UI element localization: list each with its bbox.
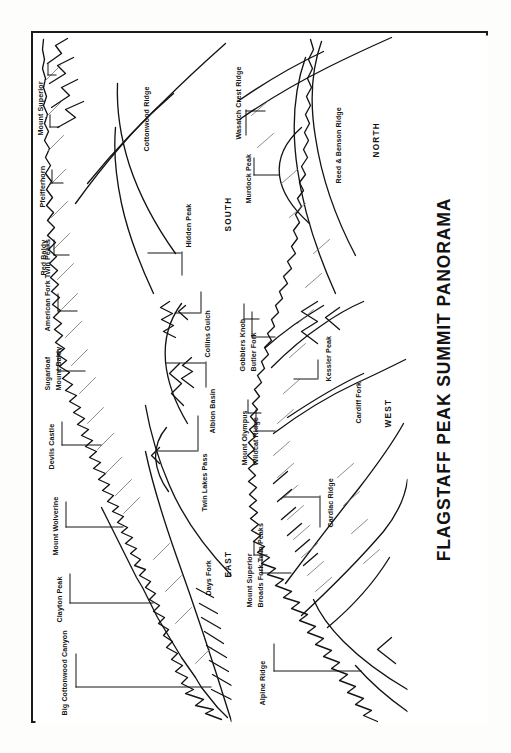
leader-line — [57, 293, 58, 311]
label-mount-baldy: Mount Baldy — [55, 346, 62, 390]
label-kessler-peak: Kessler Peak — [325, 335, 332, 381]
leader-line — [181, 251, 182, 275]
label-gobblers-knob: Gobblers Knob — [239, 318, 246, 371]
leader-line — [47, 63, 48, 75]
leader-line — [61, 421, 62, 445]
label-mount-superior-lower: Mount Superior — [246, 553, 253, 607]
leader-line — [57, 310, 77, 311]
leader-line — [273, 670, 361, 671]
leader-line — [317, 359, 318, 379]
leader-line — [197, 415, 198, 451]
leader-line — [261, 572, 291, 573]
leader-line — [245, 110, 265, 111]
leader-line — [49, 114, 50, 127]
compass-label-north: NORTH — [371, 122, 380, 157]
leader-line — [273, 643, 274, 671]
leader-line — [75, 653, 76, 687]
label-cardiac-ridge: Cardiac Ridge — [327, 478, 334, 527]
page-title: FLAGSTAFF PEAK SUMMIT PANORAMA — [433, 35, 454, 723]
leader-line — [243, 303, 244, 319]
panorama-canvas: Big Cottonwood Canyon Clayton Peak Mount… — [35, 35, 488, 723]
leader-line — [247, 412, 261, 413]
label-butler-fork: Butler Fork — [250, 332, 257, 371]
label-wildcat-ridge: Wildcat Ridge — [252, 417, 259, 465]
label-big-cottonwood-canyon: Big Cottonwood Canyon — [61, 630, 68, 715]
upper-panorama-strip: Big Cottonwood Canyon Clayton Peak Mount… — [35, 35, 231, 723]
label-mount-olympus: Mount Olympus — [241, 410, 248, 465]
label-albion-basin: Albion Basin — [209, 388, 216, 433]
label-mount-wolverine: Mount Wolverine — [52, 496, 59, 555]
label-mount-superior: Mount Superior — [37, 81, 44, 135]
label-murdock-peak: Murdock Peak — [245, 153, 252, 203]
panorama-page: Big Cottonwood Canyon Clayton Peak Mount… — [0, 0, 511, 753]
leader-line — [200, 291, 201, 313]
leader-line — [61, 444, 101, 445]
title-area: FLAGSTAFF PEAK SUMMIT PANORAMA — [407, 35, 488, 723]
label-red-baldy: Red Baldy — [40, 239, 47, 275]
compass-label-west: WEST — [383, 398, 392, 427]
leader-line — [69, 602, 153, 603]
leader-line — [319, 495, 320, 527]
leader-line — [69, 573, 70, 603]
leader-line — [155, 450, 197, 451]
leader-line — [53, 254, 69, 255]
rotated-drawing-wrapper: Big Cottonwood Canyon Clayton Peak Mount… — [33, 33, 490, 725]
leader-line — [51, 169, 52, 183]
lower-panorama-strip: Alpine Ridge Mount Superior Broads Fork … — [231, 35, 407, 723]
label-hidden-peak: Hidden Peak — [185, 203, 192, 247]
label-twin-lakes-pass: Twin Lakes Pass — [201, 453, 208, 511]
leader-line — [174, 312, 200, 313]
label-cottonwood-ridge: Cottonwood Ridge — [143, 86, 150, 151]
label-days-fork: Days Fork — [205, 560, 212, 595]
label-reed-benson-ridge: Reed & Benson Ridge — [335, 107, 342, 183]
lower-panorama-linework — [231, 35, 407, 723]
label-sugarloaf: Sugarloaf — [44, 356, 51, 390]
leader-line — [245, 109, 246, 135]
leader-line — [147, 252, 181, 253]
leader-line — [205, 361, 206, 387]
leader-line — [65, 501, 66, 527]
label-clayton-peak: Clayton Peak — [56, 576, 63, 622]
leader-line — [75, 686, 211, 687]
leader-line — [49, 126, 59, 127]
leader-line — [65, 526, 123, 527]
label-devils-castle: Devils Castle — [48, 423, 55, 469]
label-alpine-ridge: Alpine Ridge — [259, 660, 266, 705]
upper-panorama-linework — [35, 35, 231, 723]
leader-line — [283, 496, 319, 497]
label-broads-fork-twin-peaks: Broads Fork Twin Peaks — [257, 522, 264, 607]
leader-line — [51, 182, 63, 183]
label-wasatch-crest-ridge: Wasatch Crest Ridge — [235, 66, 242, 139]
label-cardiff-fork: Cardiff Fork — [355, 381, 362, 423]
label-collins-gulch: Collins Gulch — [204, 310, 211, 357]
leader-line — [253, 174, 279, 175]
leader-line — [53, 239, 54, 255]
label-pfeifferhorn: Pfeifferhorn — [39, 165, 46, 207]
leader-line — [165, 362, 205, 363]
leader-line — [293, 378, 317, 379]
page-border-frame: Big Cottonwood Canyon Clayton Peak Mount… — [31, 31, 488, 723]
leader-line — [253, 157, 254, 175]
